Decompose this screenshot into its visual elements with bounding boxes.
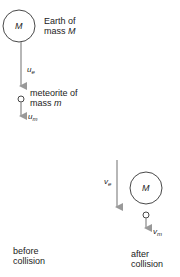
earth-before-symbol: M — [15, 21, 23, 31]
earth-label-line1: Earth of — [44, 16, 76, 26]
v-e-sub: e — [108, 181, 111, 187]
earth-after-symbol: M — [142, 183, 150, 193]
earth-mass-var: M — [68, 26, 76, 36]
after-caption-line1: after — [131, 249, 163, 259]
before-caption: before collision — [13, 246, 45, 266]
before-caption-line2: collision — [13, 256, 45, 266]
earth-before-velocity-label: ue — [27, 65, 35, 77]
u-e-sub: e — [31, 69, 34, 75]
before-caption-line1: before — [13, 246, 45, 256]
meteorite-label-line2: mass m — [30, 98, 78, 108]
earth-label-prefix: mass — [44, 26, 68, 36]
v-m-sub: m — [157, 231, 162, 237]
meteorite-after-circle — [143, 212, 149, 218]
after-caption-line2: collision — [131, 259, 163, 269]
meteorite-mass-var: m — [54, 98, 62, 108]
meteorite-after-velocity-label: vm — [153, 227, 162, 239]
after-caption: after collision — [131, 249, 163, 269]
meteorite-label-prefix: mass — [30, 98, 54, 108]
earth-label: Earth of mass M — [44, 16, 76, 36]
earth-after-velocity-label: ve — [104, 177, 111, 189]
meteorite-label-line1: meteorite of — [30, 88, 78, 98]
earth-label-line2: mass M — [44, 26, 76, 36]
u-m-sub: m — [32, 116, 37, 122]
meteorite-before-circle — [18, 96, 24, 102]
meteorite-before-velocity-label: um — [28, 112, 37, 124]
meteorite-label: meteorite of mass m — [30, 88, 78, 108]
